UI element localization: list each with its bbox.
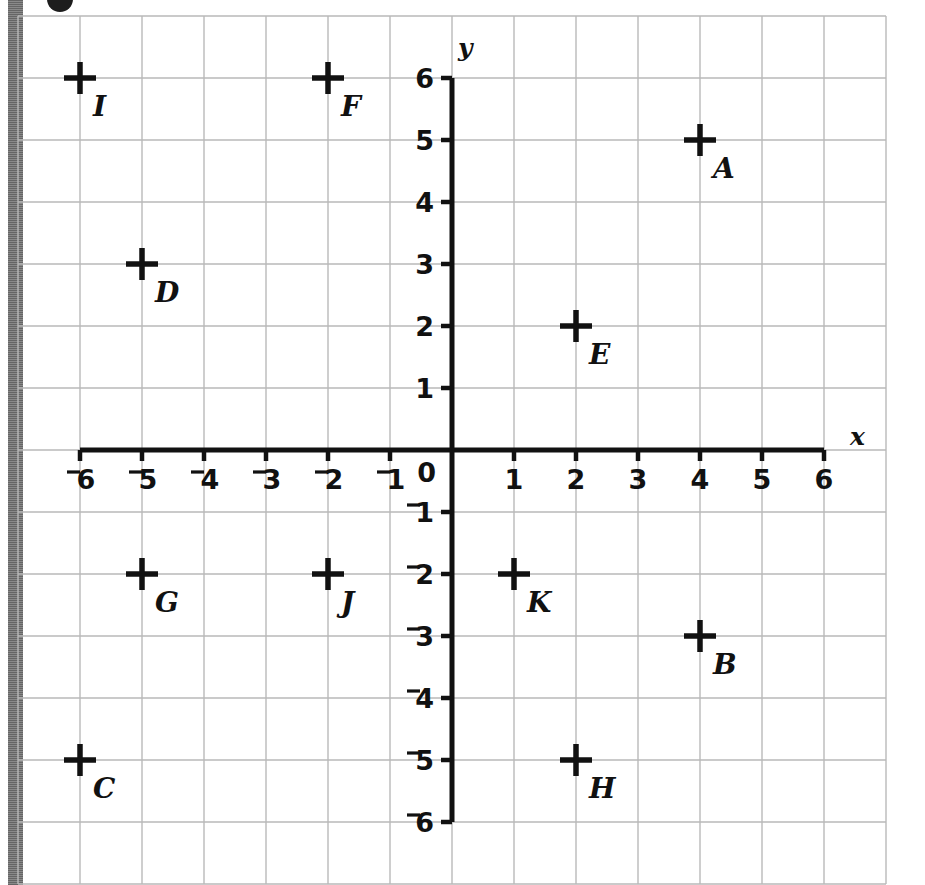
y-tick-label: 5 xyxy=(415,125,434,156)
y-tick-label: 3 xyxy=(415,621,434,652)
x-tick-label: 6 xyxy=(77,464,96,495)
x-tick-label: 5 xyxy=(753,464,772,495)
data-point-label: H xyxy=(588,772,617,805)
y-tick-label: 1 xyxy=(415,497,434,528)
y-axis-name: y xyxy=(457,33,474,62)
data-point[interactable]: E xyxy=(560,310,611,371)
data-point-label: K xyxy=(526,586,553,619)
x-tick-label: 5 xyxy=(139,464,158,495)
x-tick-label: 2 xyxy=(325,464,344,495)
data-point-label: B xyxy=(712,648,737,681)
x-tick-label: 2 xyxy=(567,464,586,495)
data-point[interactable]: K xyxy=(498,558,553,619)
data-point[interactable]: G xyxy=(126,558,179,619)
y-tick-label: 4 xyxy=(415,187,434,218)
y-tick-label: 4 xyxy=(415,683,434,714)
x-tick-label: 3 xyxy=(263,464,282,495)
data-point[interactable]: I xyxy=(64,62,107,123)
data-point-label: G xyxy=(155,586,179,619)
data-point-label: I xyxy=(92,90,107,123)
figure-canvas: 6543211234566543211234560 xy ABCDEFGHIJK xyxy=(0,0,925,885)
data-point-label: D xyxy=(154,276,180,309)
data-point-label: E xyxy=(588,338,611,371)
data-point[interactable]: F xyxy=(312,62,363,123)
data-point[interactable]: D xyxy=(126,248,180,309)
data-point[interactable]: H xyxy=(560,744,617,805)
x-tick-label: 6 xyxy=(815,464,834,495)
y-tick-label: 1 xyxy=(415,373,434,404)
coordinate-plane: 6543211234566543211234560 xy ABCDEFGHIJK xyxy=(0,0,925,885)
x-tick-label: 1 xyxy=(387,464,406,495)
data-point[interactable]: A xyxy=(684,124,735,185)
y-tick-label: 2 xyxy=(415,559,434,590)
data-point-label: F xyxy=(340,90,363,123)
data-points[interactable]: ABCDEFGHIJK xyxy=(64,62,737,805)
coordinate-plane-svg: 6543211234566543211234560 xy ABCDEFGHIJK xyxy=(0,0,925,885)
data-point[interactable]: B xyxy=(684,620,737,681)
x-axis-name: x xyxy=(849,422,866,451)
x-tick-label: 1 xyxy=(505,464,524,495)
y-tick-label: 6 xyxy=(415,807,434,838)
y-tick-label: 5 xyxy=(415,745,434,776)
y-tick-label: 6 xyxy=(415,63,434,94)
x-tick-label: 4 xyxy=(201,464,220,495)
y-tick-label: 2 xyxy=(415,311,434,342)
data-point-label: A xyxy=(710,152,735,185)
x-tick-label: 4 xyxy=(691,464,710,495)
data-point[interactable]: C xyxy=(64,744,116,805)
y-tick-label: 3 xyxy=(415,249,434,280)
data-point[interactable]: J xyxy=(312,558,356,619)
data-point-label: C xyxy=(93,772,116,805)
axis-lines xyxy=(80,78,824,822)
x-tick-label: 3 xyxy=(629,464,648,495)
origin-label: 0 xyxy=(417,457,436,488)
data-point-label: J xyxy=(336,586,356,619)
